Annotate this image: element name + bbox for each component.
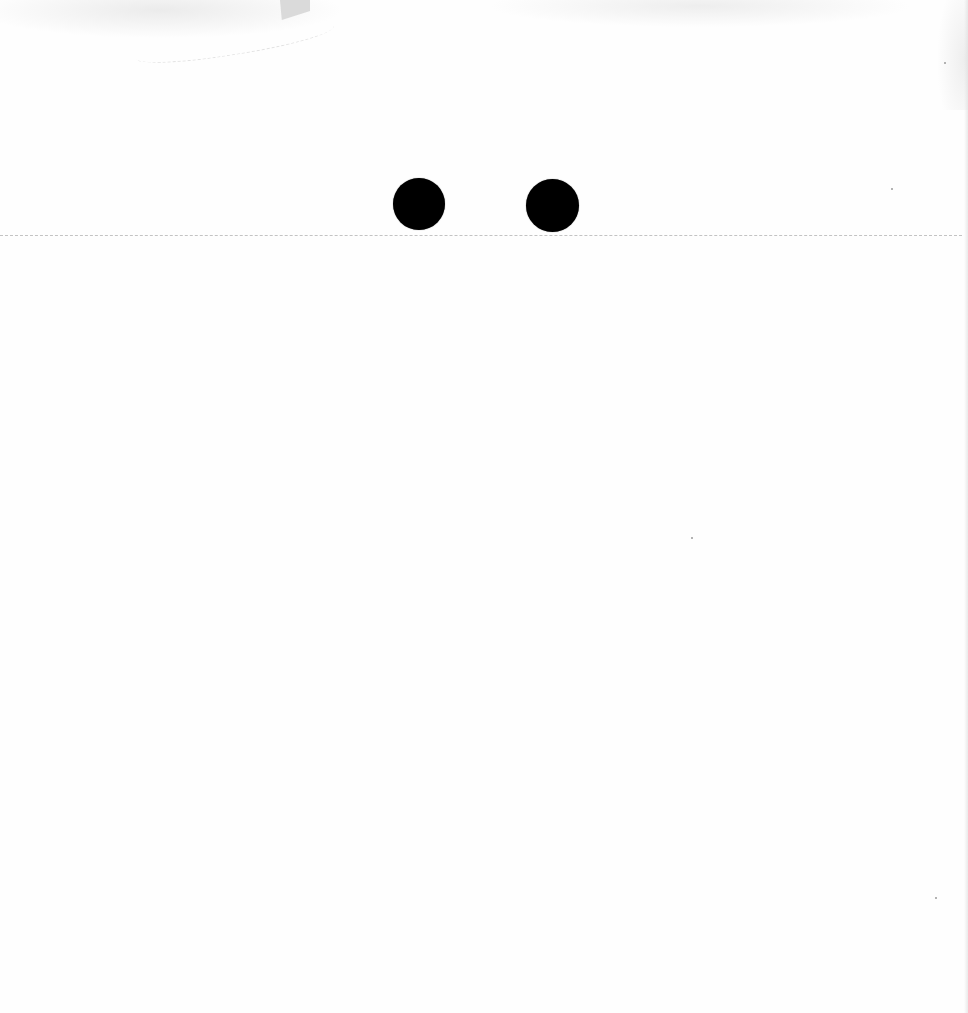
punch-hole-right	[526, 179, 579, 232]
fold-line	[0, 235, 962, 236]
dust-speck	[891, 188, 893, 190]
scanned-page	[0, 0, 968, 1013]
scuff-mark	[134, 16, 336, 69]
dust-speck	[691, 537, 693, 539]
punch-hole-left	[393, 178, 445, 230]
dust-speck	[944, 62, 946, 64]
tape-mark	[280, 0, 310, 20]
page-edge-shadow	[964, 0, 968, 1013]
dust-speck	[935, 897, 937, 899]
